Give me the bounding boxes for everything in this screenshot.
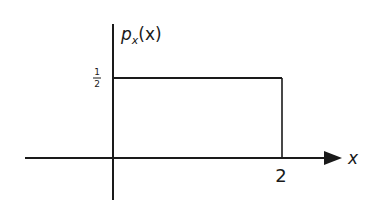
pdf-diagram: px(x) 1 2 2 x	[0, 0, 380, 214]
y-tick-numerator: 1	[94, 67, 100, 77]
x-axis-label: x	[347, 148, 359, 168]
y-label-arg: (x)	[138, 24, 161, 44]
x-tick-label: 2	[275, 165, 286, 186]
y-tick-denominator: 2	[94, 79, 100, 89]
y-axis-label: px(x)	[120, 24, 162, 47]
y-label-main: p	[120, 24, 132, 44]
x-axis-arrowhead-icon	[324, 151, 342, 165]
